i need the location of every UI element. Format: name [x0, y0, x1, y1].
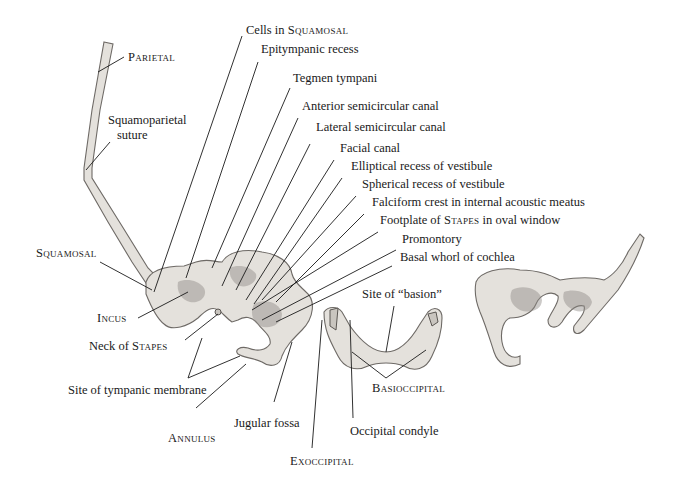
- label-neck-of-stapes-prefix: Neck of: [89, 339, 132, 353]
- label-lateral-semicircular-canal: Lateral semicircular canal: [316, 120, 446, 134]
- label-cells-sc: Squamosal: [288, 23, 349, 37]
- label-footplate-suffix: in oval window: [479, 213, 560, 227]
- label-basioccipital: Basioccipital: [372, 381, 445, 395]
- label-facial-canal: Facial canal: [340, 141, 400, 155]
- label-site-of-tympanic-membrane: Site of tympanic membrane: [68, 383, 207, 397]
- label-footplate-sc: Stapes: [444, 213, 480, 227]
- label-squamoparietal-suture-2: suture: [117, 128, 148, 142]
- label-promontory: Promontory: [402, 232, 462, 246]
- label-parietal: Parietal: [128, 50, 175, 64]
- label-falciform-crest: Falciform crest in internal acoustic mea…: [372, 195, 585, 209]
- label-footplate-prefix: Footplate of: [380, 213, 444, 227]
- label-basal-whorl: Basal whorl of cochlea: [400, 250, 515, 264]
- label-footplate-of-stapes: Footplate of Stapes in oval window: [380, 213, 560, 227]
- label-incus: Incus: [97, 311, 127, 325]
- label-occipital-condyle: Occipital condyle: [350, 424, 439, 438]
- label-site-of-basion: Site of “basion”: [362, 287, 442, 301]
- label-squamoparietal-suture-1: Squamoparietal: [108, 113, 186, 127]
- label-jugular-fossa: Jugular fossa: [234, 416, 300, 430]
- label-cells-in-squamosal: Cells in Squamosal: [246, 23, 348, 37]
- label-cells-prefix: Cells in: [246, 23, 288, 37]
- label-elliptical-recess: Elliptical recess of vestibule: [351, 159, 492, 173]
- label-squamosal: Squamosal: [36, 246, 97, 260]
- label-neck-of-stapes: Neck of Stapes: [89, 339, 168, 353]
- label-exoccipital: Exoccipital: [290, 454, 354, 468]
- label-anterior-semicircular-canal: Anterior semicircular canal: [302, 99, 439, 113]
- label-annulus: Annulus: [168, 431, 216, 445]
- label-tegmen-tympani: Tegmen tympani: [293, 71, 377, 85]
- label-neck-of-stapes-sc: Stapes: [132, 339, 168, 353]
- label-epitympanic-recess: Epitympanic recess: [261, 42, 359, 56]
- label-spherical-recess: Spherical recess of vestibule: [362, 177, 505, 191]
